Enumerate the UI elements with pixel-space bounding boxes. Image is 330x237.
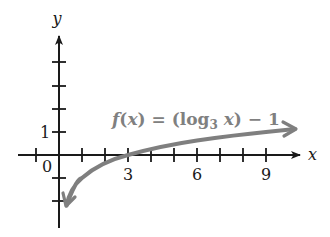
y-axis-label: y (51, 9, 62, 28)
origin-label: 0 (42, 157, 52, 176)
x-tick-label-9: 9 (261, 165, 271, 184)
y-tick-label-1: 1 (40, 123, 50, 142)
x-tick-label-3: 3 (123, 165, 133, 184)
function-label: f(x) = (log3 x) − 1 (111, 109, 280, 132)
x-axis-label: x (308, 145, 317, 164)
function-curve (63, 122, 296, 206)
x-tick-label-6: 6 (192, 165, 202, 184)
log-function-graph: y x 0 3 6 9 1 f(x) = (log3 x) − 1 (0, 0, 330, 237)
x-axis (18, 148, 300, 162)
